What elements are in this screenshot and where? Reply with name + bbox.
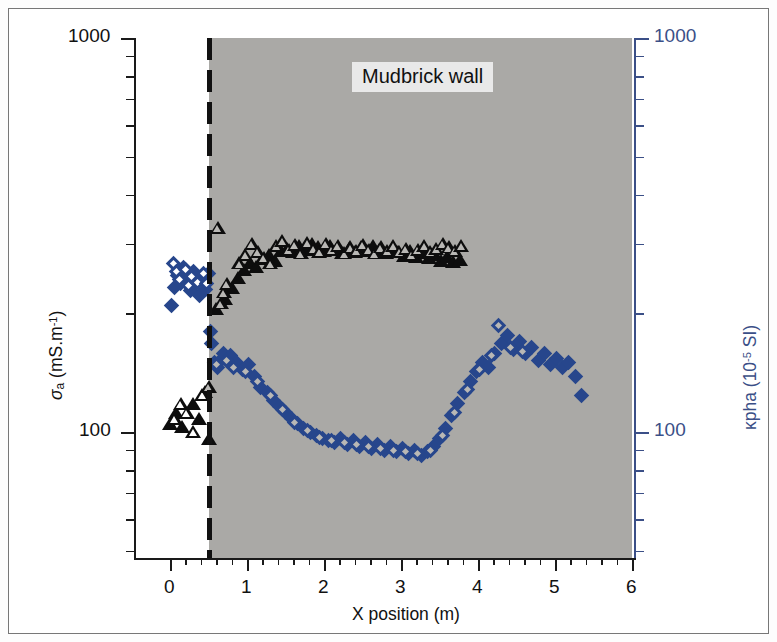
wall-boundary-dash	[207, 70, 212, 92]
y-axis-left-tick-label: 100	[79, 419, 111, 441]
data-point-diamond-open	[486, 350, 497, 361]
x-axis-tick-label: 0	[164, 576, 175, 598]
y-axis-right-minor-tick	[636, 195, 644, 196]
x-axis-minor-tick	[432, 558, 434, 565]
y-axis-left-major-tick	[121, 432, 134, 434]
y-axis-left-minor-tick	[126, 56, 134, 57]
wall-boundary-dash	[207, 198, 212, 220]
wall-boundary-dash	[207, 294, 212, 316]
wall-boundary-dash	[207, 454, 212, 476]
x-axis-major-tick	[478, 558, 480, 571]
wall-boundary-dash	[207, 134, 212, 156]
y-axis-right-minor-tick	[636, 99, 644, 100]
y-axis-left-minor-tick	[126, 551, 134, 552]
data-point-diamond-open	[265, 390, 276, 401]
y-axis-left-major-tick	[121, 38, 134, 40]
y-axis-left-minor-tick	[126, 76, 134, 77]
y-axis-left-minor-tick	[126, 125, 134, 126]
data-point-diamond-open	[326, 435, 337, 446]
y-axis-right-major-tick	[636, 432, 649, 434]
x-axis-minor-tick	[586, 558, 588, 565]
x-axis-minor-tick	[216, 558, 218, 565]
y-axis-right-minor-tick	[636, 551, 644, 552]
y-axis-right-minor-tick	[636, 56, 644, 57]
x-axis-minor-tick	[570, 558, 572, 565]
x-axis-minor-tick	[386, 558, 388, 565]
data-point-diamond-filled	[563, 357, 574, 368]
figure-panel: 100100010010000123456 Mudbrick wall σa (…	[0, 0, 777, 642]
data-point-diamond-open	[462, 384, 473, 395]
x-axis-minor-tick	[416, 558, 418, 565]
x-axis-minor-tick	[278, 558, 280, 565]
y-axis-left-minor-tick	[126, 450, 134, 451]
wall-boundary-dash	[207, 38, 212, 60]
data-point-diamond-open	[474, 364, 485, 375]
data-point-triangle-open	[219, 277, 235, 290]
y-axis-right-major-tick	[636, 38, 649, 40]
y-axis-right-minor-tick	[636, 493, 644, 494]
x-axis-major-tick	[170, 558, 172, 571]
data-point-diamond-open	[363, 441, 374, 452]
y-axis-right-tick-label: 1000	[654, 25, 696, 47]
y-axis-left-minor-tick	[126, 519, 134, 520]
data-point-diamond-open	[437, 430, 448, 441]
x-axis-tick-label: 3	[395, 576, 406, 598]
data-point-triangle-open	[262, 256, 278, 269]
y-axis-right-minor-tick	[636, 157, 644, 158]
data-point-diamond-open	[277, 404, 288, 415]
data-point-diamond-filled	[502, 330, 513, 341]
data-point-diamond-open	[449, 407, 460, 418]
x-axis-minor-tick	[355, 558, 357, 565]
x-axis-title: X position (m)	[352, 604, 460, 625]
y-axis-left-minor-tick	[126, 313, 134, 314]
data-point-triangle-open	[453, 239, 469, 252]
data-point-diamond-open	[314, 432, 325, 443]
x-axis-minor-tick	[293, 558, 295, 565]
y-axis-right-minor-tick	[636, 470, 644, 471]
data-point-diamond-open	[388, 445, 399, 456]
x-axis-minor-tick	[370, 558, 372, 565]
data-point-triangle-open	[179, 406, 195, 419]
y-axis-left-minor-tick	[126, 99, 134, 100]
plot-area: 100100010010000123456 Mudbrick wall σa (…	[0, 0, 777, 642]
x-axis-tick-label: 1	[241, 576, 252, 598]
mudbrick-wall-annotation: Mudbrick wall	[352, 62, 493, 92]
x-axis-major-tick	[324, 558, 326, 571]
x-axis-minor-tick	[540, 558, 542, 565]
x-axis-minor-tick	[262, 558, 264, 565]
x-axis-major-tick	[247, 558, 249, 571]
wall-boundary-dash	[207, 166, 212, 188]
y-axis-left-minor-tick	[126, 157, 134, 158]
data-point-triangle-open	[210, 221, 226, 234]
data-point-diamond-open	[375, 443, 386, 454]
y-axis-left-line	[134, 38, 136, 558]
y-axis-right-minor-tick	[636, 125, 644, 126]
x-axis-minor-tick	[201, 558, 203, 565]
x-axis-tick-label: 5	[549, 576, 560, 598]
data-point-diamond-open	[351, 439, 362, 450]
x-axis-minor-tick	[617, 558, 619, 565]
y-axis-right-minor-tick	[636, 450, 644, 451]
y-axis-left-minor-tick	[126, 244, 134, 245]
wall-boundary-dash	[207, 390, 212, 412]
wall-boundary-dash	[207, 326, 212, 348]
data-point-diamond-filled	[166, 300, 177, 311]
y-axis-left-minor-tick	[126, 470, 134, 471]
data-point-diamond-filled	[576, 390, 587, 401]
mudbrick-shaded-region	[209, 38, 633, 558]
x-axis-minor-tick	[524, 558, 526, 565]
x-axis-tick-label: 6	[626, 576, 637, 598]
x-axis-minor-tick	[309, 558, 311, 565]
data-point-diamond-open	[517, 346, 528, 357]
x-axis-minor-tick	[232, 558, 234, 565]
data-point-diamond-open	[302, 425, 313, 436]
data-point-triangle-open	[185, 425, 201, 438]
x-axis-tick-label: 2	[318, 576, 329, 598]
wall-boundary-dash	[207, 486, 212, 508]
x-axis-minor-tick	[493, 558, 495, 565]
data-point-diamond-open	[339, 437, 350, 448]
y-axis-left-title: σa (mS.m-1)	[46, 311, 67, 400]
wall-boundary-dash	[207, 262, 212, 284]
wall-boundary-dash	[207, 422, 212, 444]
data-point-diamond-open	[289, 417, 300, 428]
